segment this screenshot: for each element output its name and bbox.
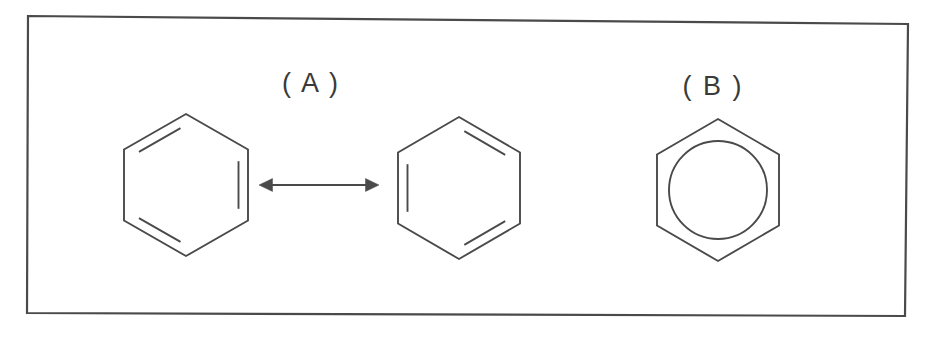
benzene-kekule-left (124, 114, 248, 256)
benzene-delocalized-aromatic-circle (669, 141, 767, 239)
chemistry-figure: ( A )( B ) (0, 0, 932, 340)
panel-label-B: ( B ) (683, 71, 744, 101)
benzene-kekule-left-outline (124, 114, 248, 256)
benzene-kekule-right (398, 117, 520, 259)
benzene-kekule-right-outline (398, 117, 520, 259)
figure-border (27, 16, 908, 316)
resonance-arrow-head-left (259, 179, 273, 192)
benzene-kekule-left-double-bond (139, 218, 181, 242)
benzene-delocalized (657, 119, 779, 261)
resonance-arrow-head-right (366, 179, 380, 192)
benzene-kekule-left-double-bond (139, 128, 181, 152)
resonance-arrow (259, 179, 379, 192)
panel-label-A: ( A ) (282, 68, 340, 98)
benzene-kekule-right-double-bond (464, 131, 505, 155)
benzene-kekule-right-double-bond (464, 221, 505, 245)
figure-container: ( A )( B ) (0, 0, 932, 340)
